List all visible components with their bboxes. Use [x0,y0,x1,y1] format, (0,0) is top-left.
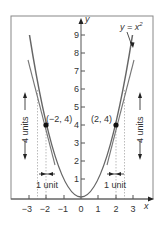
svg-text:3: 3 [130,204,135,214]
y-tick-labels: 1 2 3 4 5 6 7 8 9 [74,30,79,184]
arrow-right-icon [109,172,114,176]
svg-text:8: 8 [74,48,79,58]
svg-text:−1: −1 [58,204,68,214]
parabola-diagram: y x 1 2 3 4 5 6 7 8 9 −3 −2 −1 0 [0,0,163,225]
arrow-left-icon [116,172,121,176]
four-units-right-indicator: 4 units [134,92,146,160]
svg-text:0: 0 [78,204,83,214]
x-axis-label: x [143,201,149,211]
svg-text:4 units: 4 units [135,116,145,143]
svg-text:1: 1 [95,204,100,214]
y-axis-label: y [84,14,90,24]
svg-text:4: 4 [74,120,79,130]
svg-text:1 unit: 1 unit [36,180,59,190]
svg-text:3: 3 [74,138,79,148]
svg-text:1: 1 [74,174,79,184]
arrow-up-icon [23,92,27,98]
one-unit-right-indicator: 1 unit [104,172,127,190]
arrow-left-icon [48,172,53,176]
x-tick-labels: −3 −2 −1 0 1 2 3 [22,204,136,214]
svg-text:−2: −2 [40,204,50,214]
arrow-right-icon [41,172,46,176]
y-axis-arrow-icon [79,18,84,24]
svg-text:7: 7 [74,66,79,76]
svg-text:6: 6 [74,84,79,94]
svg-text:1 unit: 1 unit [104,180,127,190]
arrow-down-icon [138,154,142,160]
four-units-left-indicator: 4 units [19,92,31,160]
y-ticks [81,35,85,179]
svg-text:9: 9 [74,30,79,40]
svg-text:5: 5 [74,102,79,112]
arrow-down-icon [23,154,27,160]
svg-text:2: 2 [113,204,118,214]
curve-label: y = x2 [119,21,143,32]
one-unit-left-indicator: 1 unit [36,172,59,190]
svg-text:4 units: 4 units [20,116,30,143]
svg-text:−3: −3 [22,204,32,214]
point-left-label: (−2, 4) [46,114,72,124]
arrow-up-icon [138,92,142,98]
point-right-label: (2, 4) [91,114,112,124]
svg-text:2: 2 [74,156,79,166]
point-right [113,122,118,127]
